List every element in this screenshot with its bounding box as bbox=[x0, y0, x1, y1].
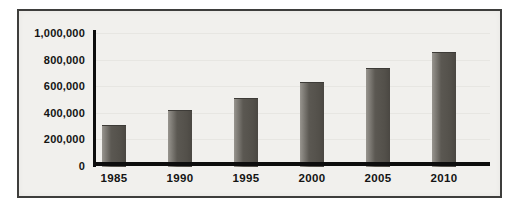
x-tick-label: 1990 bbox=[150, 171, 210, 185]
gridline bbox=[96, 139, 490, 140]
gridline bbox=[96, 113, 490, 114]
x-axis-line bbox=[93, 162, 490, 166]
bar-1995 bbox=[234, 98, 258, 167]
y-tick-label: 800,000 bbox=[19, 53, 85, 67]
bar-1990 bbox=[168, 110, 192, 167]
y-tick-label: 1,000,000 bbox=[19, 26, 85, 40]
gridline bbox=[96, 86, 490, 87]
gridline bbox=[96, 60, 490, 61]
gridline bbox=[96, 33, 490, 34]
x-tick-label: 2010 bbox=[414, 171, 474, 185]
y-axis-line bbox=[93, 30, 96, 167]
x-tick-label: 2005 bbox=[348, 171, 408, 185]
y-tick-label: 200,000 bbox=[19, 132, 85, 146]
bar-2000 bbox=[300, 82, 324, 167]
x-tick-label: 1985 bbox=[84, 171, 144, 185]
y-tick-label: 400,000 bbox=[19, 106, 85, 120]
bar-2005 bbox=[366, 68, 390, 167]
bar-chart-frame: 0200,000400,000600,000800,0001,000,00019… bbox=[17, 9, 502, 198]
x-tick-label: 1995 bbox=[216, 171, 276, 185]
plot-area: 0200,000400,000600,000800,0001,000,00019… bbox=[19, 11, 500, 196]
x-tick-label: 2000 bbox=[282, 171, 342, 185]
bar-1985 bbox=[102, 125, 126, 167]
y-tick-label: 600,000 bbox=[19, 79, 85, 93]
bar-2010 bbox=[432, 52, 456, 167]
y-tick-label: 0 bbox=[19, 159, 85, 173]
